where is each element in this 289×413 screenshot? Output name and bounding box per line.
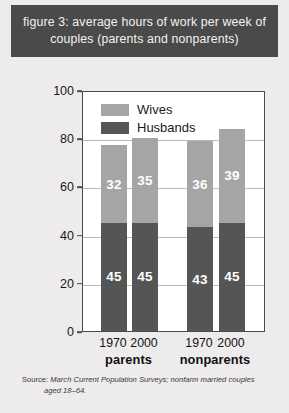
x-group-label: nonparents (165, 352, 265, 367)
bar-stack[interactable]: 4539 (219, 129, 245, 331)
bar-value-label-husbands: 45 (137, 269, 153, 284)
bar-segment-wives[interactable]: 39 (219, 129, 245, 223)
bar-segment-husbands[interactable]: 45 (132, 223, 158, 331)
bar-value-label-husbands: 43 (192, 272, 208, 287)
plot-area: 4532453543364539 Wives Husbands (82, 91, 265, 332)
x-tick-label: 2000 (123, 336, 165, 350)
source-line-1: March Current Population Surveys; nonfar… (50, 375, 254, 384)
x-group-label: parents (79, 352, 179, 367)
bar-segment-husbands[interactable]: 45 (219, 223, 245, 331)
legend-swatch-wives-icon (101, 104, 129, 116)
bar-value-label-wives: 35 (137, 173, 153, 188)
legend-label-wives: Wives (137, 102, 172, 117)
bar-segment-husbands[interactable]: 45 (101, 223, 127, 331)
y-tick-label: 20 (44, 277, 74, 291)
y-tick-label: 0 (44, 325, 74, 339)
bar-value-label-husbands: 45 (106, 269, 122, 284)
bar-value-label-wives: 32 (106, 177, 122, 192)
legend-item-wives: Wives (101, 102, 196, 117)
bar-stack[interactable]: 4336 (187, 141, 213, 331)
figure-container: figure 3: average hours of work per week… (0, 0, 289, 413)
bar-value-label-husbands: 45 (224, 269, 240, 284)
y-tick-label: 40 (44, 229, 74, 243)
bar-segment-wives[interactable]: 35 (132, 138, 158, 222)
y-tick-label: 100 (44, 84, 74, 98)
bar-stack[interactable]: 4532 (101, 145, 127, 331)
bar-segment-wives[interactable]: 36 (187, 141, 213, 228)
legend-label-husbands: Husbands (137, 120, 196, 135)
figure-title-banner: figure 3: average hours of work per week… (11, 5, 278, 57)
y-tick-label: 80 (44, 132, 74, 146)
source-line-2: aged 18–64. (22, 385, 272, 396)
legend: Wives Husbands (101, 102, 196, 138)
x-tick-label: 2000 (210, 336, 252, 350)
bar-stack[interactable]: 4535 (132, 138, 158, 331)
bar-segment-husbands[interactable]: 43 (187, 227, 213, 331)
y-tick-label: 60 (44, 180, 74, 194)
page-title: figure 3: average hours of work per week… (21, 14, 268, 48)
bar-value-label-wives: 36 (192, 177, 208, 192)
source-label: Source: (22, 375, 48, 384)
bar-value-label-wives: 39 (224, 168, 240, 183)
legend-item-husbands: Husbands (101, 120, 196, 135)
bar-segment-wives[interactable]: 32 (101, 145, 127, 222)
legend-swatch-husbands-icon (101, 122, 129, 134)
source-note: Source: March Current Population Surveys… (22, 374, 272, 396)
